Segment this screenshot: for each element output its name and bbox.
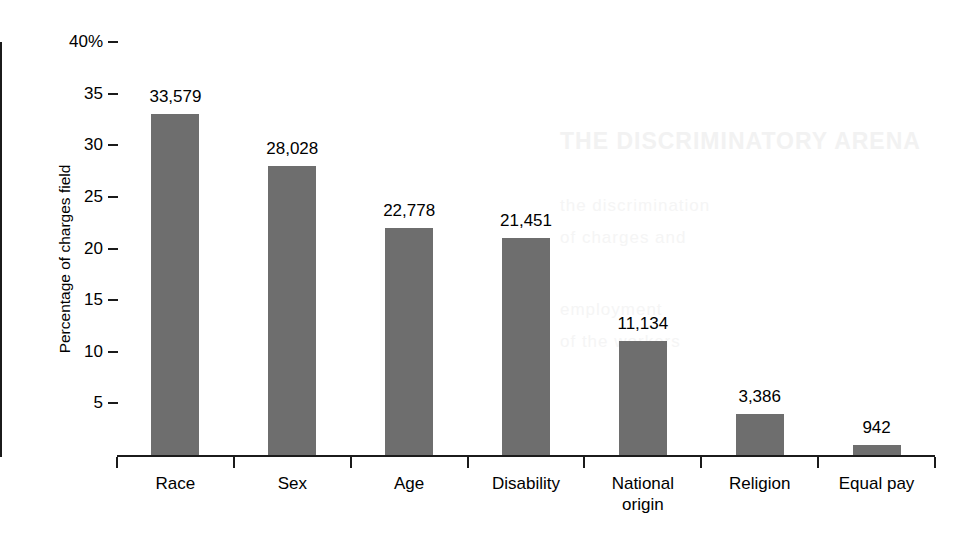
y-axis-tick	[108, 248, 118, 250]
x-axis-tick	[817, 457, 819, 468]
y-axis-tick-label: 15	[3, 291, 103, 308]
y-axis-tick	[108, 41, 118, 43]
y-axis-tick-label: 5	[3, 394, 103, 411]
bar-value-label: 21,451	[456, 212, 596, 229]
y-axis-tick-label: 40%	[3, 33, 103, 50]
bar-chart-figure: THE DISCRIMINATORY ARENA the discriminat…	[0, 0, 966, 551]
bar-value-label: 942	[807, 419, 947, 436]
bar-value-label: 3,386	[690, 388, 830, 405]
y-axis-title: Percentage of charges field	[56, 109, 74, 409]
x-axis-tick	[583, 457, 585, 468]
y-axis-tick-label: 25	[3, 188, 103, 205]
bar	[736, 414, 784, 455]
bar-value-label: 28,028	[222, 140, 362, 157]
x-axis-tick	[700, 457, 702, 468]
x-axis-tick	[350, 457, 352, 468]
x-axis-line	[117, 455, 935, 457]
bar	[619, 341, 667, 455]
bar	[268, 166, 316, 455]
y-axis-tick	[108, 196, 118, 198]
x-axis-tick	[467, 457, 469, 468]
bar	[853, 445, 901, 455]
x-axis-category-label: Equal pay	[807, 473, 947, 494]
bar	[502, 238, 550, 455]
y-axis-tick-label: 20	[3, 240, 103, 257]
ghost-bleedthrough-line-2: of charges and	[560, 228, 686, 248]
bar-value-label: 33,579	[105, 88, 245, 105]
y-axis-tick	[108, 351, 118, 353]
y-axis-tick	[108, 144, 118, 146]
ghost-bleedthrough-heading: THE DISCRIMINATORY ARENA	[560, 128, 921, 155]
bar	[151, 114, 199, 455]
bar	[385, 228, 433, 455]
x-axis-tick	[116, 457, 118, 468]
bar-value-label: 11,134	[573, 315, 713, 332]
y-axis-tick-label: 35	[3, 85, 103, 102]
y-axis-tick	[108, 402, 118, 404]
y-axis-tick	[108, 299, 118, 301]
y-axis-tick-label: 30	[3, 136, 103, 153]
x-axis-tick	[934, 457, 936, 468]
y-axis-tick-label: 10	[3, 343, 103, 360]
y-axis-line	[0, 42, 2, 457]
x-axis-tick	[233, 457, 235, 468]
